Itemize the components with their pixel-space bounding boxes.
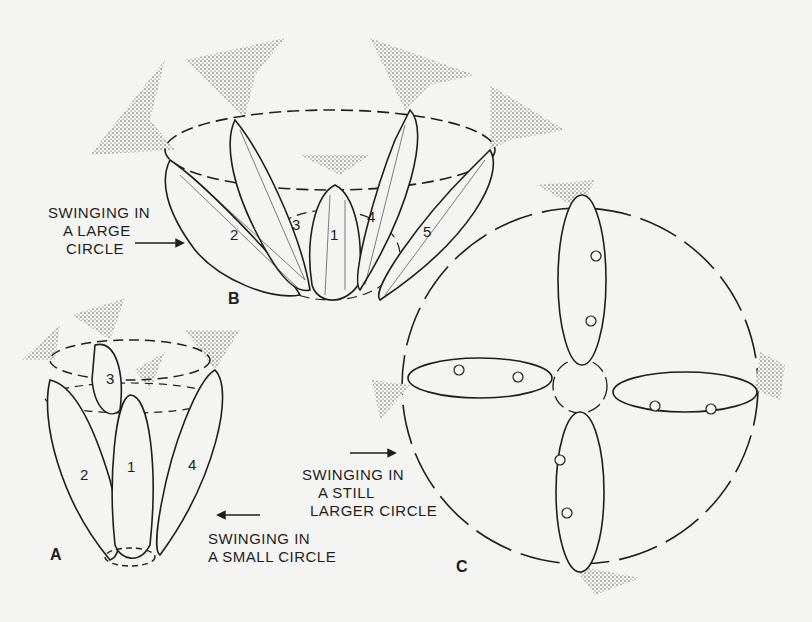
stem-number-a-1: 1 xyxy=(127,458,135,475)
leaf-right xyxy=(613,372,757,412)
stem-number-4: 4 xyxy=(367,208,375,225)
caption-c: SWINGING IN A STILL LARGER CIRCLE xyxy=(302,466,437,520)
caption-b: SWINGING IN A LARGE CIRCLE xyxy=(48,204,150,258)
panel-label-b: B xyxy=(228,290,240,308)
stipple-bloom xyxy=(300,155,370,175)
stem-number-2: 2 xyxy=(230,226,238,243)
stem-number-a-3: 3 xyxy=(106,370,114,387)
stipple-bloom xyxy=(90,60,175,155)
panel-label-c: C xyxy=(456,558,468,576)
leaf-top xyxy=(558,195,606,365)
caption-b-line-2: A LARGE xyxy=(48,222,150,240)
caption-a-line-1: SWINGING IN xyxy=(208,530,336,548)
panel-a-drawing: 2 3 1 4 xyxy=(22,298,240,566)
caption-c-line-2: A STILL xyxy=(302,484,437,502)
stipple-bloom xyxy=(370,38,475,110)
leaf-bottom xyxy=(556,412,604,572)
panel-b-drawing: 2 3 1 4 5 xyxy=(90,38,565,300)
stem-number-a-4: 4 xyxy=(188,456,196,473)
stem-number-5: 5 xyxy=(423,223,431,240)
caption-b-line-3: CIRCLE xyxy=(48,240,150,258)
stipple-bloom xyxy=(490,85,565,150)
caption-c-line-3: LARGER CIRCLE xyxy=(302,502,437,520)
stem-number-1: 1 xyxy=(330,226,338,243)
caption-a: SWINGING IN A SMALL CIRCLE xyxy=(208,530,336,566)
caption-b-line-1: SWINGING IN xyxy=(48,204,150,222)
swinging-motion-figure: 2 3 1 4 5 2 3 1 4 xyxy=(0,0,812,622)
panel-label-a: A xyxy=(50,546,62,564)
caption-c-line-1: SWINGING IN xyxy=(302,466,437,484)
stem-a-1 xyxy=(112,395,153,558)
caption-a-line-2: A SMALL CIRCLE xyxy=(208,548,336,566)
stem-number-3: 3 xyxy=(292,216,300,233)
stem-number-a-2: 2 xyxy=(80,466,88,483)
stipple-bloom xyxy=(185,38,285,118)
leaf-left xyxy=(408,358,552,398)
